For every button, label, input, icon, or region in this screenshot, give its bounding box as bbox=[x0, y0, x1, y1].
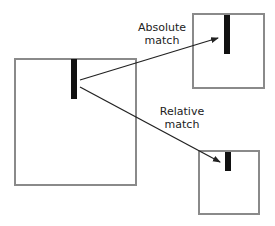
absolute-match-label: Absolute match bbox=[132, 21, 192, 47]
absolute-label-line2: match bbox=[132, 34, 192, 47]
relative-label-line1: Relative bbox=[153, 105, 211, 118]
relative-label-line2: match bbox=[153, 118, 211, 131]
absolute-label-line1: Absolute bbox=[132, 21, 192, 34]
relative-match-label: Relative match bbox=[153, 105, 211, 131]
